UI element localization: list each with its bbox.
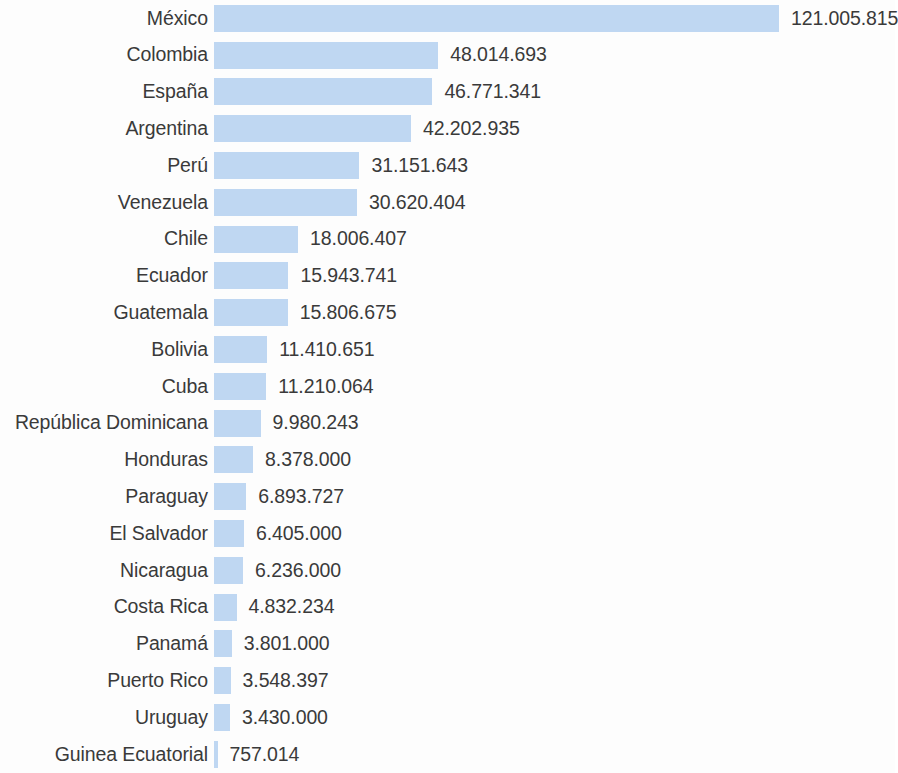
bar-row: Nicaragua6.236.000 — [0, 552, 895, 589]
bar-row: Guinea Ecuatorial757.014 — [0, 736, 895, 773]
bar — [214, 299, 288, 326]
bar-row: Colombia48.014.693 — [0, 37, 895, 74]
category-label: Costa Rica — [0, 597, 208, 617]
bar — [214, 483, 246, 510]
bar-area: 18.006.407 — [208, 221, 895, 258]
bar-area: 9.980.243 — [208, 405, 895, 442]
value-label: 3.430.000 — [242, 708, 328, 728]
value-label: 6.405.000 — [256, 524, 342, 544]
bar-area: 8.378.000 — [208, 442, 895, 479]
value-label: 42.202.935 — [423, 119, 520, 139]
bar-row: El Salvador6.405.000 — [0, 515, 895, 552]
value-label: 11.410.651 — [279, 340, 374, 360]
bar — [214, 704, 230, 731]
bar-row: Cuba11.210.064 — [0, 368, 895, 405]
bar-row: Chile18.006.407 — [0, 221, 895, 258]
bar — [214, 42, 438, 69]
value-label: 15.806.675 — [300, 303, 397, 323]
bar-area: 4.832.234 — [208, 589, 895, 626]
bar — [214, 630, 232, 657]
bar — [214, 557, 243, 584]
bar-row: España46.771.341 — [0, 74, 895, 111]
bar — [214, 189, 357, 216]
bar-area: 3.548.397 — [208, 662, 895, 699]
category-label: Perú — [0, 156, 208, 176]
value-label: 18.006.407 — [310, 229, 407, 249]
value-label: 46.771.341 — [444, 82, 541, 102]
value-label: 6.236.000 — [255, 561, 341, 581]
value-label: 48.014.693 — [450, 45, 547, 65]
bar-area: 48.014.693 — [208, 37, 895, 74]
bar-area: 121.005.815 — [208, 0, 898, 37]
category-label: Nicaragua — [0, 561, 208, 581]
bar-row: Uruguay3.430.000 — [0, 699, 895, 736]
bar-area: 757.014 — [208, 736, 895, 773]
bar — [214, 336, 267, 363]
value-label: 4.832.234 — [249, 597, 335, 617]
category-label: Cuba — [0, 377, 208, 397]
bar-area: 15.943.741 — [208, 258, 895, 295]
value-label: 31.151.643 — [371, 156, 468, 176]
bar-area: 42.202.935 — [208, 110, 895, 147]
bar-area: 46.771.341 — [208, 74, 895, 111]
bar — [214, 410, 261, 437]
bar-area: 3.430.000 — [208, 699, 895, 736]
value-label: 9.980.243 — [273, 413, 359, 433]
bar — [214, 5, 779, 32]
value-label: 757.014 — [230, 745, 300, 765]
bar — [214, 667, 231, 694]
bar-area: 3.801.000 — [208, 626, 895, 663]
category-label: Argentina — [0, 119, 208, 139]
bar-row: Venezuela30.620.404 — [0, 184, 895, 221]
bar-row: Bolivia11.410.651 — [0, 331, 895, 368]
bar — [214, 226, 298, 253]
bar-row: Paraguay6.893.727 — [0, 478, 895, 515]
category-label: Colombia — [0, 45, 208, 65]
category-label: Honduras — [0, 450, 208, 470]
value-label: 121.005.815 — [791, 9, 898, 29]
category-label: Guatemala — [0, 303, 208, 323]
category-label: República Dominicana — [0, 413, 208, 433]
bar-area: 11.210.064 — [208, 368, 895, 405]
bar-area: 6.405.000 — [208, 515, 895, 552]
bar-area: 31.151.643 — [208, 147, 895, 184]
category-label: Panamá — [0, 634, 208, 654]
bar-area: 15.806.675 — [208, 294, 895, 331]
category-label: Uruguay — [0, 708, 208, 728]
bar-row: México121.005.815 — [0, 0, 895, 37]
category-label: Guinea Ecuatorial — [0, 745, 208, 765]
bar — [214, 520, 244, 547]
category-label: Venezuela — [0, 193, 208, 213]
bar-row: Panamá3.801.000 — [0, 626, 895, 663]
category-label: Puerto Rico — [0, 671, 208, 691]
category-label: España — [0, 82, 208, 102]
bar — [214, 446, 253, 473]
value-label: 15.943.741 — [300, 266, 397, 286]
bar — [214, 373, 266, 400]
bar-area: 11.410.651 — [208, 331, 895, 368]
category-label: Chile — [0, 229, 208, 249]
value-label: 3.548.397 — [243, 671, 329, 691]
value-label: 6.893.727 — [258, 487, 344, 507]
category-label: El Salvador — [0, 524, 208, 544]
bar — [214, 741, 218, 768]
bar-row: Ecuador15.943.741 — [0, 258, 895, 295]
bar-row: Guatemala15.806.675 — [0, 294, 895, 331]
bar-row: Honduras8.378.000 — [0, 442, 895, 479]
value-label: 3.801.000 — [244, 634, 330, 654]
value-label: 8.378.000 — [265, 450, 351, 470]
bar-row: Costa Rica4.832.234 — [0, 589, 895, 626]
value-label: 11.210.064 — [278, 377, 373, 397]
bar-row: Puerto Rico3.548.397 — [0, 662, 895, 699]
bar — [214, 262, 288, 289]
bar-area: 30.620.404 — [208, 184, 895, 221]
category-label: México — [0, 9, 208, 29]
bar — [214, 115, 411, 142]
bar-area: 6.236.000 — [208, 552, 895, 589]
bar — [214, 594, 237, 621]
value-label: 30.620.404 — [369, 193, 466, 213]
category-label: Paraguay — [0, 487, 208, 507]
category-label: Bolivia — [0, 340, 208, 360]
bar-row: República Dominicana9.980.243 — [0, 405, 895, 442]
